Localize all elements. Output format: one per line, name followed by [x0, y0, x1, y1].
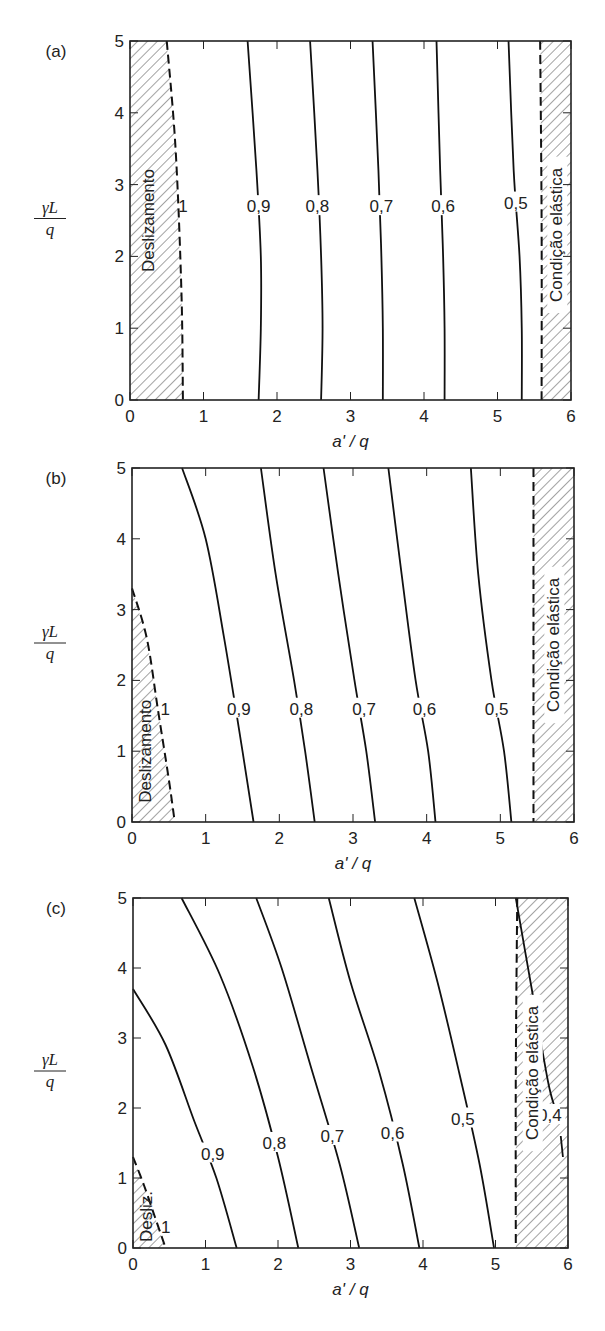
contour-line-0-5: [414, 898, 494, 1248]
contour-line-0-8: [310, 41, 322, 400]
x-axis-label: a' / q: [332, 1280, 369, 1299]
y-axis-label-denominator: q: [46, 220, 55, 239]
chart-panel-a: 10,90,80,70,60,5DeslizamentoCondição elá…: [34, 32, 576, 451]
y-tick-label: 1: [118, 1169, 127, 1188]
y-tick-label: 3: [118, 1029, 127, 1048]
x-tick-label: 5: [491, 1255, 500, 1274]
contour-label: 0,7: [352, 700, 376, 719]
contour-line-0-9: [182, 468, 253, 822]
plot-frame: [132, 468, 574, 822]
contour-line-0-6: [388, 468, 435, 822]
contour-label: 0,7: [370, 197, 394, 216]
y-tick-label: 0: [118, 1239, 127, 1258]
contour-label: 0,6: [381, 1124, 405, 1143]
chart-panel-b: 10,90,80,70,60,5DeslizamentoCondição elá…: [34, 459, 579, 873]
contour-line-0-6: [329, 898, 420, 1248]
contour-label: 0,8: [290, 700, 314, 719]
contour-line-0-9: [248, 41, 262, 400]
x-tick-label: 1: [201, 829, 210, 848]
contour-label: 1: [161, 1218, 170, 1237]
zone-label: Desliz.: [137, 1191, 156, 1242]
x-tick-label: 4: [419, 407, 428, 426]
contour-line-0-5: [509, 41, 522, 400]
zone-label: Condição elástica: [544, 577, 563, 712]
contour-label: 0,5: [504, 194, 528, 213]
x-tick-label: 4: [418, 1255, 427, 1274]
x-tick-label: 3: [348, 829, 357, 848]
y-tick-label: 4: [115, 104, 124, 123]
panel-label: (b): [46, 469, 67, 488]
x-tick-label: 2: [273, 1255, 282, 1274]
contour-line-0-8: [182, 898, 299, 1248]
x-tick-label: 5: [493, 407, 502, 426]
contour-label: 0,8: [306, 197, 330, 216]
y-axis-label-denominator: q: [46, 1072, 55, 1091]
x-tick-label: 3: [346, 1255, 355, 1274]
x-tick-label: 6: [563, 1255, 572, 1274]
y-tick-label: 5: [115, 32, 124, 51]
panel-label: (c): [46, 899, 66, 918]
y-axis-label-numerator: γL: [42, 1050, 58, 1069]
contour-label: 1: [160, 700, 169, 719]
x-tick-label: 0: [128, 1255, 137, 1274]
zone-label: Deslizamento: [139, 169, 158, 272]
contour-label: 0,5: [485, 700, 509, 719]
x-tick-label: 0: [125, 407, 134, 426]
contour-line-0-7: [373, 41, 383, 400]
plot-frame: [130, 41, 571, 400]
x-tick-label: 1: [199, 407, 208, 426]
contour-label: 0,9: [201, 1145, 225, 1164]
y-tick-label: 4: [118, 959, 127, 978]
panel-label: (a): [46, 42, 67, 61]
x-tick-label: 6: [566, 407, 575, 426]
contour-label: 0,7: [321, 1127, 345, 1146]
x-tick-label: 4: [422, 829, 431, 848]
x-tick-label: 5: [496, 829, 505, 848]
x-axis-label: a' / q: [335, 854, 372, 873]
y-tick-label: 1: [115, 319, 124, 338]
x-tick-label: 6: [569, 829, 578, 848]
y-axis-label-denominator: q: [46, 644, 55, 663]
contour-line-0-7: [256, 898, 359, 1248]
contour-line-0-8: [261, 468, 315, 822]
contour-label: 0,5: [451, 1110, 475, 1129]
y-tick-label: 3: [115, 176, 124, 195]
y-tick-label: 2: [117, 671, 126, 690]
contour-label: 0,6: [431, 197, 455, 216]
contour-line-0-5: [471, 468, 512, 822]
contour-line-0-6: [436, 41, 444, 400]
y-tick-label: 2: [118, 1099, 127, 1118]
contour-label: 0,9: [227, 700, 251, 719]
y-tick-label: 2: [115, 247, 124, 266]
x-tick-label: 1: [201, 1255, 210, 1274]
y-axis-label-numerator: γL: [42, 622, 58, 641]
x-tick-label: 3: [346, 407, 355, 426]
y-tick-label: 0: [115, 391, 124, 410]
contour-label: 0,6: [413, 700, 437, 719]
contour-label: 0,9: [247, 197, 271, 216]
y-tick-label: 5: [117, 459, 126, 478]
contour-chart-figure: 10,90,80,70,60,5DeslizamentoCondição elá…: [0, 0, 605, 1331]
y-axis-label-numerator: γL: [42, 198, 58, 217]
y-tick-label: 3: [117, 601, 126, 620]
zone-label: Condição elástica: [547, 167, 566, 302]
x-tick-label: 0: [127, 829, 136, 848]
zone-label: Condição elástica: [523, 1005, 542, 1140]
y-tick-label: 5: [118, 889, 127, 908]
contour-label: 1: [178, 197, 187, 216]
y-tick-label: 0: [117, 813, 126, 832]
plot-frame: [133, 898, 568, 1248]
chart-panels: 10,90,80,70,60,5DeslizamentoCondição elá…: [34, 32, 579, 1299]
y-tick-label: 4: [117, 530, 126, 549]
x-axis-label: a' / q: [332, 432, 369, 451]
chart-panel-c: 10,90,80,70,60,50,4Desliz.Condição elást…: [34, 889, 573, 1299]
x-tick-label: 2: [272, 407, 281, 426]
contour-label: 0,8: [263, 1134, 287, 1153]
contour-line-0-7: [324, 468, 376, 822]
x-tick-label: 2: [275, 829, 284, 848]
y-tick-label: 1: [117, 742, 126, 761]
